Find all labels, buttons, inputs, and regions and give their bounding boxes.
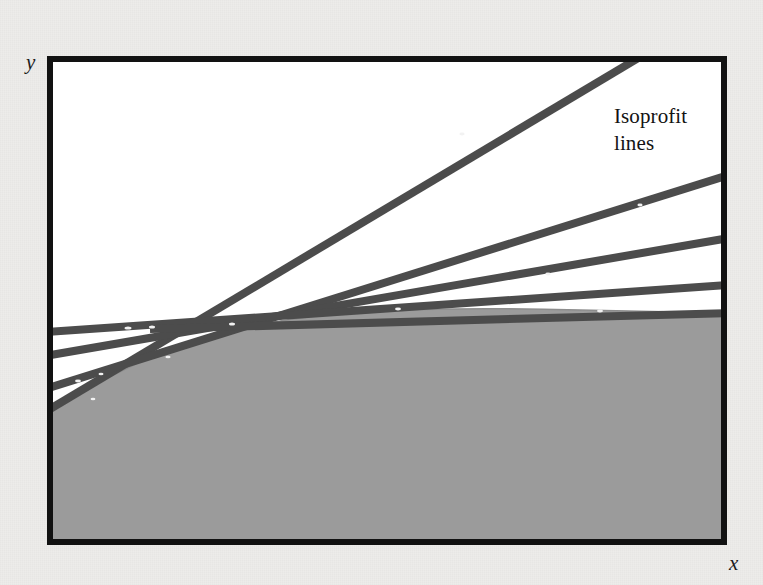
isoprofit-lines-annotation: Isoprofit lines — [614, 103, 687, 157]
y-axis-label: y — [26, 52, 35, 73]
x-axis-label: x — [729, 553, 738, 574]
isoprofit-figure — [0, 0, 763, 585]
